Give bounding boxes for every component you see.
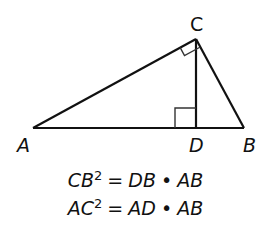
- eq1-equals: =: [107, 169, 123, 191]
- eq1-dot: •: [161, 169, 172, 191]
- vertex-label-B: B: [243, 134, 256, 156]
- eq2-exponent: 2: [94, 196, 102, 211]
- equation-2: AC2=AD•AB: [0, 196, 271, 219]
- eq1-exponent: 2: [94, 168, 102, 183]
- eq2-lhs: AC: [68, 197, 94, 219]
- vertex-label-D: D: [189, 134, 204, 156]
- right-angle-marker-D: [175, 108, 196, 128]
- eq2-dot: •: [161, 197, 172, 219]
- eq1-lhs: CB: [68, 169, 94, 191]
- vertex-label-C: C: [190, 13, 203, 35]
- side-AC: [33, 39, 196, 128]
- side-CB: [196, 39, 244, 128]
- eq2-equals: =: [107, 197, 123, 219]
- eq2-factor-1: AD: [128, 197, 156, 219]
- equation-1: CB2=DB•AB: [0, 168, 271, 191]
- eq1-factor-2: AB: [177, 169, 203, 191]
- eq2-factor-2: AB: [177, 197, 203, 219]
- eq1-factor-1: DB: [128, 169, 156, 191]
- right-angle-marker-C: [180, 47, 200, 56]
- vertex-label-A: A: [15, 134, 30, 156]
